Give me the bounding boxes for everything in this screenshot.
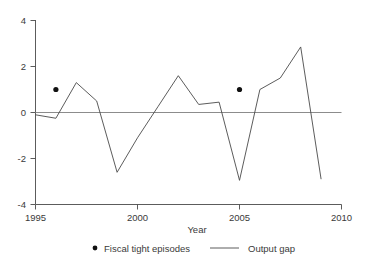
output-gap-chart: 4 2 0 -2 -4 1995 2000 2005 2010 Year — [0, 0, 366, 269]
y-tick-label-minus-2: -2 — [18, 153, 26, 164]
y-tick-label-2: 2 — [21, 61, 26, 72]
legend-label-output-gap: Output gap — [248, 243, 295, 254]
y-tick-label-4: 4 — [21, 15, 26, 26]
legend-dot-icon — [93, 246, 98, 251]
x-axis-title: Year — [187, 224, 206, 235]
y-tick-labels: 4 2 0 -2 -4 — [18, 15, 26, 210]
y-tick-marks — [31, 21, 36, 205]
series-line-output-gap — [36, 47, 322, 180]
x-tick-label-2005: 2005 — [229, 212, 250, 223]
y-tick-label-0: 0 — [21, 107, 26, 118]
x-tick-label-1995: 1995 — [25, 212, 46, 223]
x-tick-labels: 1995 2000 2005 2010 — [25, 212, 352, 223]
legend-label-fiscal-tight-episodes: Fiscal tight episodes — [104, 243, 190, 254]
chart-legend: Fiscal tight episodes Output gap — [93, 243, 295, 254]
fiscal-tight-episode-marker — [53, 87, 58, 92]
chart-figure: 4 2 0 -2 -4 1995 2000 2005 2010 Year — [0, 0, 366, 269]
y-tick-label-minus-4: -4 — [18, 199, 26, 210]
x-tick-marks — [36, 205, 342, 210]
x-tick-label-2000: 2000 — [127, 212, 148, 223]
fiscal-tight-episode-marker — [237, 87, 242, 92]
x-tick-label-2010: 2010 — [331, 212, 352, 223]
